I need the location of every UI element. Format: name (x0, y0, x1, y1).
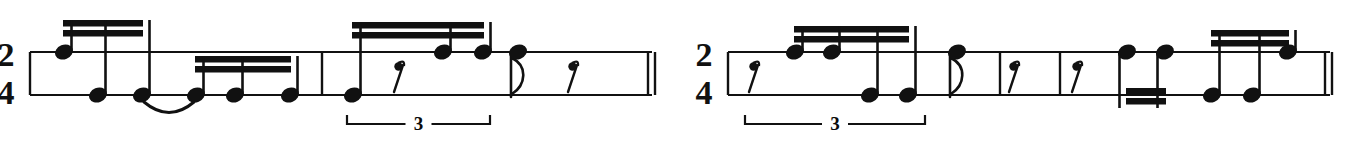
note-flag (950, 54, 962, 97)
tuplet-bracket-1: 3 (745, 113, 925, 134)
tuplet-number: 3 (414, 113, 424, 134)
note-flag (511, 54, 523, 97)
time-signature-numerator: 2 (0, 36, 15, 73)
eighth-rest-1 (394, 62, 404, 92)
notation-canvas: 243243 (0, 0, 1366, 147)
beam-group-1 (63, 20, 143, 37)
beam-group-3 (352, 22, 484, 39)
note-6 (279, 56, 301, 105)
beam-group-2 (1126, 88, 1166, 105)
barline-final (648, 52, 655, 95)
time-signature: 24 (696, 36, 713, 111)
barline-final (1325, 52, 1332, 95)
note-4 (185, 56, 207, 105)
note-5 (224, 56, 246, 105)
beam-group-3 (1211, 30, 1289, 47)
note-10 (507, 42, 529, 97)
system-1: 243 (0, 20, 655, 134)
eighth-rest-3 (1072, 62, 1082, 92)
tuplet-bracket-1: 3 (347, 113, 490, 134)
tie-1 (144, 102, 194, 113)
time-signature-denominator: 4 (0, 74, 15, 111)
beam-group-1 (794, 26, 909, 43)
eighth-rest-2 (1009, 62, 1019, 92)
time-signature-numerator: 2 (696, 36, 713, 73)
time-signature: 24 (0, 36, 15, 111)
time-signature-denominator: 4 (696, 74, 713, 111)
eighth-rest-2 (568, 62, 578, 92)
tuplet-number: 3 (830, 113, 840, 134)
system-2: 243 (696, 26, 1333, 134)
note-5 (946, 42, 968, 97)
eighth-rest-1 (749, 62, 759, 92)
music-notation-sheet: 243243 (0, 0, 1366, 147)
